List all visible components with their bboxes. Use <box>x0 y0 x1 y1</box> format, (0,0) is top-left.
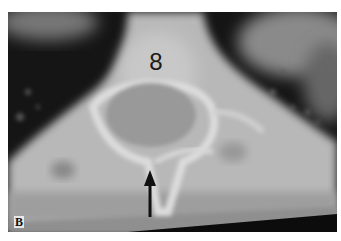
ct-scan-graphic <box>8 12 337 232</box>
vertebra-level-label: 8 <box>136 50 176 74</box>
panel-label: B <box>14 216 24 228</box>
ct-image: 8 B <box>8 12 337 232</box>
